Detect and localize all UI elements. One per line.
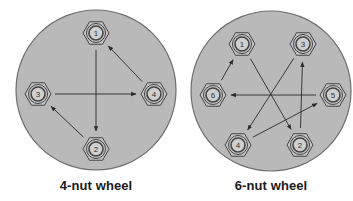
- lug-nut-sequence-diagram: 1234 123456: [0, 0, 353, 201]
- lug-nut-number: 4: [152, 90, 157, 99]
- lug-nut-number: 4: [236, 141, 241, 150]
- lug-nut-number: 5: [331, 91, 336, 100]
- four-nut-wheel-caption: 4-nut wheel: [16, 178, 176, 193]
- lug-nut-number: 3: [301, 40, 306, 49]
- lug-nut-number: 6: [211, 91, 216, 100]
- lug-nut-number: 2: [94, 145, 99, 154]
- four-nut-wheel: 1234: [16, 10, 176, 170]
- six-nut-wheel: 123456: [191, 11, 351, 171]
- six-nut-wheel-caption: 6-nut wheel: [191, 178, 351, 193]
- lug-nut-number: 1: [94, 29, 99, 38]
- lug-nut-number: 2: [298, 141, 303, 150]
- lug-nut-number: 1: [240, 40, 245, 49]
- lug-nut-number: 3: [36, 90, 41, 99]
